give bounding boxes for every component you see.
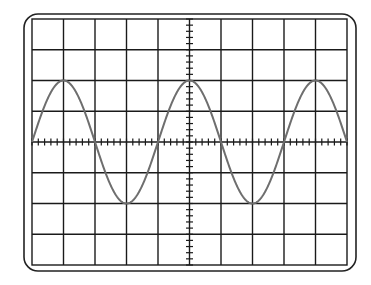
oscilloscope-screen — [0, 0, 371, 285]
